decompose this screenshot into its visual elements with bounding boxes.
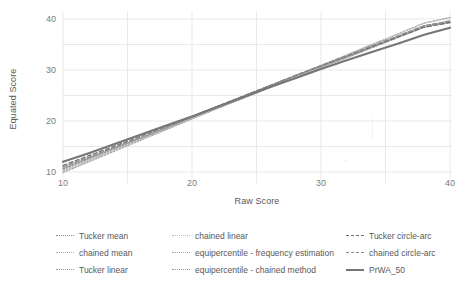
legend-line-swatch-icon: [346, 265, 364, 275]
legend-column-3: Tucker circle-arc chained circle-arc PrW…: [346, 228, 458, 279]
legend-label: chained linear: [195, 231, 248, 241]
legend-item-chained-linear[interactable]: chained linear: [172, 228, 346, 244]
scan-artifact: [344, 160, 347, 161]
legend-line-swatch-icon: [346, 248, 364, 258]
legend-label: PrWA_50: [369, 265, 405, 275]
legend-item-chained-circle-arc[interactable]: chained circle-arc: [346, 245, 458, 261]
legend-label: Tucker circle-arc: [369, 231, 432, 241]
legend-label: chained circle-arc: [369, 248, 436, 258]
chart-legend: Tucker mean chained mean Tucker linear c…: [56, 228, 456, 284]
legend-item-tucker-mean[interactable]: Tucker mean: [56, 228, 172, 244]
legend-item-equipercentile-chained-method[interactable]: equipercentile - chained method: [172, 262, 346, 278]
plot-region: Equated Score 40 30 20 10 10 20 30 40 Ra…: [0, 0, 465, 215]
legend-line-swatch-icon: [56, 248, 74, 258]
legend-label: equipercentile - frequency estimation: [195, 248, 334, 258]
legend-item-chained-mean[interactable]: chained mean: [56, 245, 172, 261]
legend-column-1: Tucker mean chained mean Tucker linear: [56, 228, 172, 279]
legend-line-swatch-icon: [172, 231, 190, 241]
legend-item-prwa-50[interactable]: PrWA_50: [346, 262, 458, 278]
legend-line-swatch-icon: [56, 231, 74, 241]
legend-label: chained mean: [79, 248, 132, 258]
legend-item-tucker-circle-arc[interactable]: Tucker circle-arc: [346, 228, 458, 244]
legend-item-equipercentile-frequency-estimation[interactable]: equipercentile - frequency estimation: [172, 245, 346, 261]
chart-figure: Equated Score 40 30 20 10 10 20 30 40 Ra…: [0, 0, 465, 299]
legend-line-swatch-icon: [56, 265, 74, 275]
legend-label: equipercentile - chained method: [195, 265, 316, 275]
legend-column-2: chained linear equipercentile - frequenc…: [172, 228, 346, 279]
legend-item-tucker-linear[interactable]: Tucker linear: [56, 262, 172, 278]
legend-line-swatch-icon: [172, 248, 190, 258]
legend-line-swatch-icon: [172, 265, 190, 275]
legend-line-swatch-icon: [346, 231, 364, 241]
legend-label: Tucker mean: [79, 231, 128, 241]
plot-canvas: [0, 0, 465, 215]
scan-artifact: [372, 118, 373, 140]
legend-label: Tucker linear: [79, 265, 128, 275]
